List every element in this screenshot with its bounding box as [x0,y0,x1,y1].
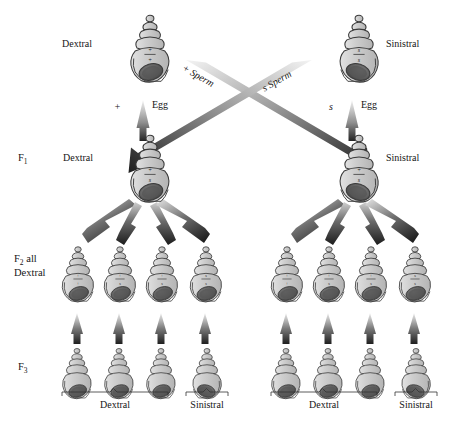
gamete-right-egg-allele: s [329,101,333,112]
generation-label-f2-line2: Dextral [14,267,46,279]
generation-label-f3: F3 [18,361,28,375]
bracket-label-right-dextral: Dextral [294,399,354,410]
bracket-label-left-dextral: Dextral [85,399,145,410]
bracket-layer [0,0,461,421]
gamete-left-egg-label: Egg [152,99,168,110]
parent-left-phenotype: Dextral [62,38,92,49]
gamete-right-egg-label: Egg [361,99,377,110]
parent-right-phenotype: Sinistral [386,38,419,49]
generation-label-f2: F2 all Dextral [14,253,46,279]
f1-right-phenotype: Sinistral [386,152,419,163]
figure-canvas: + + s s [0,0,461,421]
gamete-left-egg-allele: + [114,101,121,112]
f1-left-phenotype: Dextral [63,152,93,163]
bracket-label-left-sinistral: Sinistral [177,399,237,410]
generation-label-f1: F1 [18,152,28,166]
bracket-label-right-sinistral: Sinistral [386,399,446,410]
